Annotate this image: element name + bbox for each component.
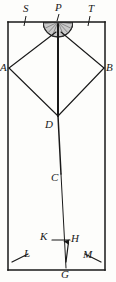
point-label-D: D xyxy=(45,119,53,130)
point-label-G: G xyxy=(61,269,69,280)
figure-canvas xyxy=(0,0,116,282)
tick-mark-S xyxy=(24,16,26,26)
point-label-P: P xyxy=(55,2,62,13)
arrow-G-to-H xyxy=(66,242,69,262)
point-label-M: M xyxy=(83,249,92,260)
ray-B-to-D xyxy=(58,68,104,116)
point-label-L: L xyxy=(24,248,30,259)
ray-A-to-D xyxy=(9,68,58,116)
point-label-C: C xyxy=(51,172,58,183)
point-label-B: B xyxy=(106,62,113,73)
geometry-figure: S P T A B D C K H L M G xyxy=(0,0,116,282)
ray-P-to-B xyxy=(61,32,104,68)
point-label-S: S xyxy=(23,3,29,14)
axis-D-to-C xyxy=(58,116,61,174)
point-label-T: T xyxy=(88,3,94,14)
ray-P-to-A xyxy=(9,32,56,68)
point-label-H: H xyxy=(71,233,79,244)
tick-mark-P xyxy=(57,14,59,21)
tick-mark-T xyxy=(88,16,90,26)
axis-C-to-G xyxy=(61,174,66,268)
point-label-A: A xyxy=(0,62,7,73)
point-label-K: K xyxy=(40,231,47,242)
